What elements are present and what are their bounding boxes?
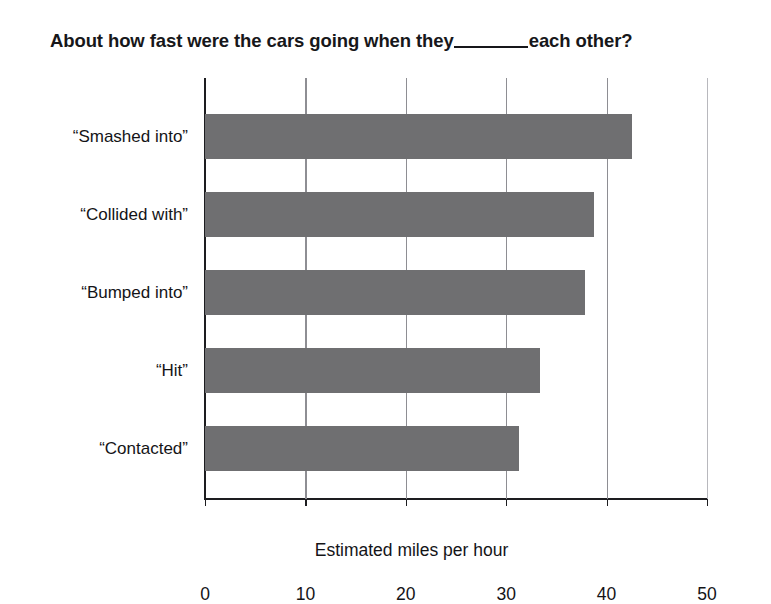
tickmark-40 — [607, 499, 608, 506]
x-tick-label-40: 40 — [577, 584, 637, 604]
category-label-hit: “Hit” — [0, 348, 188, 393]
x-axis-line — [204, 498, 707, 500]
tickmark-0 — [205, 499, 206, 506]
x-tick-label-20: 20 — [376, 584, 436, 604]
chart-title-blank — [454, 34, 528, 48]
x-axis-title: Estimated miles per hour — [0, 540, 771, 561]
bar-collided-with — [205, 192, 594, 237]
tickmark-20 — [406, 499, 407, 506]
plot-area: 0 10 20 30 40 50 — [205, 78, 707, 499]
x-tick-label-10: 10 — [275, 584, 335, 604]
bar-hit — [205, 348, 540, 393]
x-axis-title-text: Estimated miles per hour — [315, 540, 509, 560]
chart-title-suffix: each other? — [529, 30, 633, 51]
tickmark-30 — [506, 499, 507, 506]
bar-contacted — [205, 426, 519, 471]
category-label-bumped-into: “Bumped into” — [0, 270, 188, 315]
chart-title: About how fast were the cars going when … — [50, 30, 632, 52]
gridline-50 — [707, 78, 708, 499]
tickmark-50 — [707, 499, 708, 506]
x-tick-label-50: 50 — [677, 584, 737, 604]
x-tick-label-0: 0 — [175, 584, 235, 604]
tickmark-10 — [305, 499, 306, 506]
x-tick-label-30: 30 — [476, 584, 536, 604]
bar-smashed-into — [205, 114, 632, 159]
category-label-contacted: “Contacted” — [0, 426, 188, 471]
category-label-collided-with: “Collided with” — [0, 192, 188, 237]
category-label-smashed-into: “Smashed into” — [0, 114, 188, 159]
chart-title-prefix: About how fast were the cars going when … — [50, 30, 454, 51]
bar-bumped-into — [205, 270, 585, 315]
